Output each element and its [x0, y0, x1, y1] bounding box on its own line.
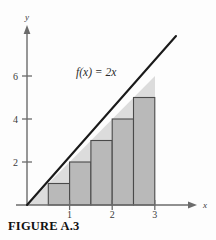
figure-caption: FIGURE A.3	[8, 219, 79, 234]
figure-container: 2 4 6 1 2 3 y x f(x) = 2x FIGURE A.3	[0, 0, 216, 240]
x-tick-label-1: 1	[67, 209, 72, 218]
table-row	[91, 141, 112, 206]
y-axis-arrow	[24, 25, 31, 34]
x-axis-label: x	[202, 200, 207, 210]
table-row	[70, 162, 91, 205]
table-row	[134, 98, 155, 206]
table-row	[112, 119, 133, 205]
x-tick-label-3: 3	[152, 209, 157, 218]
y-tick-label-6: 6	[13, 71, 18, 82]
table-row	[48, 184, 69, 206]
y-axis-label: y	[24, 12, 29, 22]
y-tick-label-4: 4	[13, 114, 18, 125]
x-axis-arrow	[188, 202, 197, 209]
plot-area: 2 4 6 1 2 3 y x f(x) = 2x	[0, 0, 216, 218]
y-tick-label-2: 2	[13, 157, 18, 168]
x-tick-label-2: 2	[110, 209, 115, 218]
riemann-rectangles	[48, 98, 155, 206]
function-label: f(x) = 2x	[76, 66, 117, 79]
